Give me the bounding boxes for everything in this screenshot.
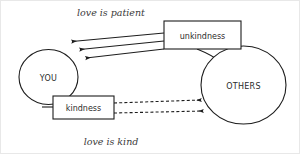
diagram-canvas: YOU OTHERS unkindness kindness love is p… [0,0,300,154]
flow-kindness-to-others-2 [114,111,203,113]
node-unkindness-label: unkindness [180,32,225,41]
flow-unkindness-to-you-1 [72,33,164,42]
flow-kindness-to-others-1 [114,100,201,103]
relationship-diagram: YOU OTHERS unkindness kindness love is p… [1,1,300,154]
caption-love-is-patient: love is patient [77,7,145,18]
node-others-label: OTHERS [226,82,261,91]
node-kindness-label: kindness [66,104,101,113]
flow-unkindness-to-you-3 [86,49,164,58]
node-you-label: YOU [39,74,58,83]
caption-love-is-kind: love is kind [84,136,139,147]
flow-unkindness-to-you-2 [80,41,164,50]
